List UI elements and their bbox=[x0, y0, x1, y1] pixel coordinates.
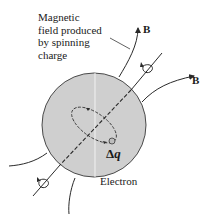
field-line-top bbox=[119, 28, 138, 77]
caption-line-1: Magnetic bbox=[38, 11, 102, 24]
electron-sphere bbox=[42, 73, 146, 177]
leader-line bbox=[110, 38, 130, 49]
electron-label: Electron bbox=[100, 175, 137, 187]
rotation-arrow-top-head bbox=[140, 62, 144, 67]
field-line-right bbox=[142, 76, 194, 102]
rotation-arrow-top-icon bbox=[143, 65, 153, 73]
charge-label: Δq bbox=[106, 146, 121, 162]
electron-spin-diagram bbox=[0, 0, 211, 224]
field-line-left bbox=[9, 153, 47, 166]
caption-line-2: field produced bbox=[38, 24, 102, 37]
caption-text: Magnetic field produced by spinning char… bbox=[38, 11, 102, 61]
charge-dq-icon bbox=[109, 138, 115, 144]
charge-label-q: q bbox=[114, 146, 121, 161]
field-line-bottom bbox=[69, 178, 75, 214]
field-label-b-top: B bbox=[143, 23, 150, 35]
charge-label-delta: Δ bbox=[106, 146, 114, 161]
caption-line-4: charge bbox=[38, 49, 102, 62]
spin-axis-top bbox=[131, 53, 162, 90]
caption-line-3: by spinning bbox=[38, 36, 102, 49]
field-label-b-right: B bbox=[192, 74, 199, 86]
